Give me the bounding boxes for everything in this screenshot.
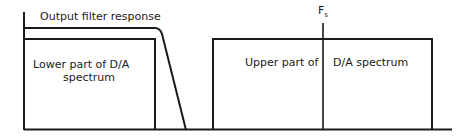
output-filter-label: Output filter response bbox=[40, 10, 161, 23]
upper-block-label-left: Upper part of bbox=[245, 56, 318, 69]
lower-spectrum-block bbox=[24, 39, 155, 130]
upper-block-label-right: D/A spectrum bbox=[333, 56, 408, 69]
lower-block-label-line2: spectrum bbox=[63, 71, 115, 84]
lower-block-label-line1: Lower part of D/A bbox=[33, 58, 129, 71]
fs-label-subscript: s bbox=[324, 11, 328, 19]
fs-marker-label: Fs bbox=[318, 4, 328, 19]
